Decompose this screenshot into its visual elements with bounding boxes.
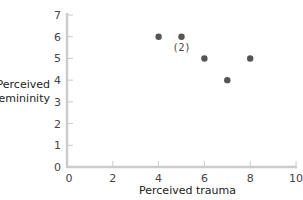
y-tick-label: 5 [54, 52, 61, 65]
y-tick-label: 1 [54, 139, 61, 152]
data-point [247, 55, 253, 61]
point-annotation: (2) [172, 42, 190, 53]
data-point [224, 77, 230, 83]
x-tick-label: 10 [289, 172, 303, 185]
y-tick-label: 3 [54, 96, 61, 109]
y-tick-label: 6 [54, 31, 61, 44]
x-tick-label: 0 [66, 172, 73, 185]
data-point [155, 34, 161, 40]
y-tick-label: 4 [54, 74, 61, 87]
data-point [201, 55, 207, 61]
data-point [178, 34, 184, 40]
x-axis-title: Perceived trauma [139, 184, 236, 197]
y-axis-title: femininity [0, 92, 50, 105]
y-tick-label: 2 [54, 118, 61, 131]
scatter-plot: 012345670246810Perceived traumaPerceived… [0, 0, 303, 200]
x-tick-label: 2 [109, 172, 116, 185]
x-tick-label: 8 [247, 172, 254, 185]
y-tick-label: 7 [54, 9, 61, 22]
y-axis-title: Perceived [0, 78, 50, 91]
y-tick-label: 0 [54, 161, 61, 174]
